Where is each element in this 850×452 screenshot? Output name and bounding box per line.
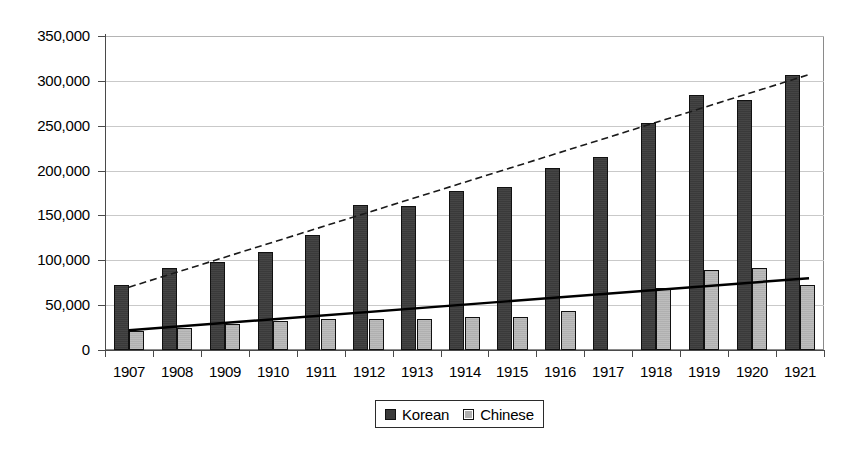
gridline bbox=[105, 350, 824, 351]
chinese-swatch-icon bbox=[463, 409, 474, 420]
bar-korean-1914 bbox=[449, 191, 464, 350]
bar-chinese-1909 bbox=[225, 324, 240, 350]
bar-chinese-1910 bbox=[273, 321, 288, 350]
x-axis-label: 1913 bbox=[393, 363, 441, 380]
x-axis-label: 1920 bbox=[728, 363, 776, 380]
gridline bbox=[105, 260, 824, 261]
x-axis-label: 1914 bbox=[441, 363, 489, 380]
y-axis-label: 250,000 bbox=[37, 118, 90, 133]
bar-korean-1921 bbox=[785, 75, 800, 350]
bar-korean-1913 bbox=[401, 206, 416, 350]
y-axis-label: 300,000 bbox=[37, 73, 90, 88]
bar-korean-1917 bbox=[593, 157, 608, 350]
bar-chinese-1913 bbox=[417, 319, 432, 350]
gridline bbox=[105, 171, 824, 172]
x-axis-label: 1907 bbox=[105, 363, 153, 380]
y-axis-label: 100,000 bbox=[37, 252, 90, 267]
bar-chinese-1918 bbox=[656, 288, 671, 350]
bar-chinese-1907 bbox=[129, 331, 144, 350]
x-axis-label: 1910 bbox=[249, 363, 297, 380]
x-axis-tick bbox=[584, 350, 585, 357]
bar-korean-1910 bbox=[258, 252, 273, 350]
gridline bbox=[105, 215, 824, 216]
bar-korean-1916 bbox=[545, 168, 560, 350]
bar-korean-1909 bbox=[210, 262, 225, 350]
bar-chart: 050,000100,000150,000200,000250,000300,0… bbox=[0, 0, 850, 452]
legend-item-chinese: Chinese bbox=[463, 407, 534, 422]
x-axis-tick bbox=[249, 350, 250, 357]
bar-korean-1918 bbox=[641, 123, 656, 350]
legend-label-chinese: Chinese bbox=[480, 407, 534, 422]
bar-korean-1920 bbox=[737, 100, 752, 350]
bar-chinese-1912 bbox=[369, 319, 384, 350]
y-axis-tick bbox=[98, 126, 106, 127]
bar-chinese-1915 bbox=[513, 317, 528, 350]
x-axis-tick bbox=[297, 350, 298, 357]
x-axis-tick bbox=[105, 350, 106, 357]
bar-chinese-1908 bbox=[177, 328, 192, 350]
x-axis-label: 1912 bbox=[345, 363, 393, 380]
x-axis-label: 1909 bbox=[201, 363, 249, 380]
gridline bbox=[105, 36, 824, 37]
x-axis-label: 1911 bbox=[297, 363, 345, 380]
x-axis-tick bbox=[153, 350, 154, 357]
bar-korean-1911 bbox=[305, 235, 320, 350]
y-axis-tick bbox=[98, 36, 106, 37]
bar-korean-1919 bbox=[689, 95, 704, 350]
y-axis-tick bbox=[98, 305, 106, 306]
korean-swatch-icon bbox=[385, 409, 396, 420]
legend-item-korean: Korean bbox=[385, 407, 449, 422]
x-axis-tick bbox=[776, 350, 777, 357]
x-axis-label: 1921 bbox=[776, 363, 824, 380]
x-axis-label: 1908 bbox=[153, 363, 201, 380]
x-axis-label: 1916 bbox=[536, 363, 584, 380]
bar-korean-1915 bbox=[497, 187, 512, 350]
y-axis-tick bbox=[98, 260, 106, 261]
bar-chinese-1914 bbox=[465, 317, 480, 350]
x-axis-label: 1917 bbox=[584, 363, 632, 380]
x-axis-label: 1918 bbox=[632, 363, 680, 380]
y-axis-label: 200,000 bbox=[37, 163, 90, 178]
y-axis-tick bbox=[98, 215, 106, 216]
bar-korean-1908 bbox=[162, 268, 177, 350]
y-axis-tick bbox=[98, 81, 106, 82]
y-axis-label: 350,000 bbox=[37, 28, 90, 43]
gridline bbox=[105, 81, 824, 82]
chart-legend: Korean Chinese bbox=[375, 400, 544, 428]
x-axis-label: 1915 bbox=[488, 363, 536, 380]
y-axis-label: 150,000 bbox=[37, 207, 90, 222]
x-axis-tick bbox=[345, 350, 346, 357]
bar-chinese-1921 bbox=[800, 285, 815, 350]
y-axis-tick bbox=[98, 171, 106, 172]
x-axis-tick bbox=[632, 350, 633, 357]
y-axis-label: 0 bbox=[82, 342, 90, 357]
bar-chinese-1916 bbox=[561, 311, 576, 350]
bar-chinese-1920 bbox=[752, 268, 767, 350]
bar-chinese-1911 bbox=[321, 319, 336, 350]
legend-label-korean: Korean bbox=[402, 407, 449, 422]
bar-chinese-1919 bbox=[704, 270, 719, 350]
x-axis-tick bbox=[201, 350, 202, 357]
x-axis-tick bbox=[728, 350, 729, 357]
x-axis-tick bbox=[680, 350, 681, 357]
x-axis-tick bbox=[536, 350, 537, 357]
bar-korean-1912 bbox=[353, 205, 368, 350]
bar-korean-1907 bbox=[114, 285, 129, 350]
x-axis-tick bbox=[393, 350, 394, 357]
x-axis-tick bbox=[441, 350, 442, 357]
gridline bbox=[105, 126, 824, 127]
x-axis-tick bbox=[824, 350, 825, 357]
x-axis-tick bbox=[488, 350, 489, 357]
y-axis-label: 50,000 bbox=[45, 297, 90, 312]
x-axis-label: 1919 bbox=[680, 363, 728, 380]
